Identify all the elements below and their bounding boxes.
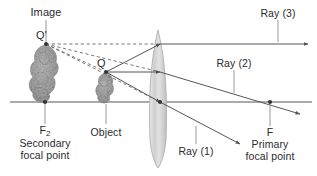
ray-3-label: Ray (3)	[260, 7, 295, 19]
ray-2	[106, 72, 300, 114]
lens-ray-diagram: Image Q' Q Object F2 Secondary focal poi…	[0, 0, 317, 176]
point-label-q: Q	[97, 57, 106, 69]
point-f2	[43, 100, 47, 104]
ray-3	[106, 44, 308, 72]
object-figure	[96, 73, 114, 103]
point-q-prime	[44, 42, 48, 46]
image-figure	[29, 45, 58, 102]
object-label: Object	[91, 126, 122, 138]
f2-caption-line2: focal point	[21, 150, 70, 162]
ray-1-label: Ray (1)	[178, 145, 213, 157]
converging-lens	[149, 30, 166, 168]
f-label: F	[267, 127, 274, 139]
ray-2-label: Ray (2)	[216, 57, 251, 69]
f2-caption-line1: Secondary	[19, 138, 70, 150]
point-f	[268, 100, 272, 104]
f-caption-line1: Primary	[252, 139, 289, 151]
image-label: Image	[30, 6, 61, 18]
ray-1	[106, 72, 240, 144]
point-lens-center	[158, 100, 162, 104]
point-q	[104, 70, 108, 74]
f-caption-line2: focal point	[246, 151, 295, 163]
point-label-q-prime: Q'	[36, 29, 47, 41]
